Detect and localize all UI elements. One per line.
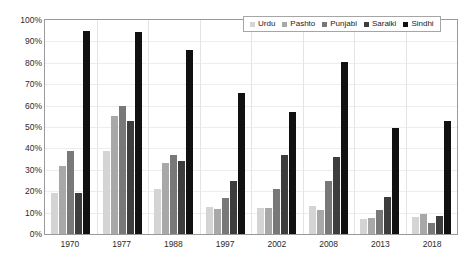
legend-label: Sindhi [411, 20, 433, 28]
legend-label: Pashto [290, 20, 315, 28]
y-axis-tick-label: 40% [2, 144, 42, 153]
bar [111, 116, 118, 234]
bar [238, 93, 245, 234]
y-axis-tick-label: 0% [2, 230, 42, 239]
bar [317, 210, 324, 234]
x-axis: 19701977198819972002200820132018 [44, 236, 458, 254]
bar-chart: 0%10%20%30%40%50%60%70%80%90%100% 197019… [0, 0, 469, 263]
legend-label: Urdu [258, 20, 275, 28]
bar [412, 217, 419, 234]
bar [368, 218, 375, 234]
bar-group [148, 20, 200, 234]
y-axis-tick-label: 80% [2, 59, 42, 68]
bar [119, 106, 126, 234]
legend-swatch-icon [282, 22, 287, 27]
bar [265, 208, 272, 234]
y-axis-tick-label: 70% [2, 80, 42, 89]
y-axis-tick-label: 50% [2, 123, 42, 132]
legend-label: Saraiki [372, 20, 396, 28]
bar [281, 155, 288, 234]
legend-item[interactable]: Saraiki [364, 20, 396, 28]
y-axis-tick-label: 10% [2, 208, 42, 217]
y-axis-tick-label: 20% [2, 187, 42, 196]
bar [67, 151, 74, 234]
bar [186, 50, 193, 234]
y-axis-tick-label: 30% [2, 166, 42, 175]
bar [392, 128, 399, 234]
bar [170, 155, 177, 234]
x-axis-tick-label: 2002 [251, 236, 303, 254]
legend-swatch-icon [250, 22, 255, 27]
bar [51, 193, 58, 234]
legend-item[interactable]: Urdu [250, 20, 275, 28]
x-axis-tick-label: 2018 [406, 236, 458, 254]
y-axis: 0%10%20%30%40%50%60%70%80%90%100% [0, 19, 42, 235]
bars-layer [45, 20, 457, 234]
legend-item[interactable]: Punjabi [322, 20, 357, 28]
bar [103, 151, 110, 234]
bar [214, 209, 221, 234]
bar [135, 32, 142, 234]
legend-item[interactable]: Pashto [282, 20, 315, 28]
bar-group [354, 20, 406, 234]
bar [127, 121, 134, 234]
bar [222, 198, 229, 234]
bar [257, 208, 264, 234]
x-axis-tick-label: 1970 [44, 236, 96, 254]
legend-swatch-icon [403, 22, 408, 27]
bar [75, 193, 82, 234]
bar-group [251, 20, 303, 234]
x-axis-tick-label: 1977 [96, 236, 148, 254]
bar [333, 157, 340, 234]
bar [289, 112, 296, 234]
bar [376, 210, 383, 234]
x-axis-tick-label: 2013 [355, 236, 407, 254]
bar-group [45, 20, 97, 234]
x-axis-tick-label: 1988 [148, 236, 200, 254]
legend-swatch-icon [364, 22, 369, 27]
legend-swatch-icon [322, 22, 327, 27]
bar [230, 181, 237, 235]
bar [162, 163, 169, 234]
y-axis-tick-label: 100% [2, 16, 42, 25]
y-axis-tick-label: 90% [2, 37, 42, 46]
chart-legend: UrduPashtoPunjabiSaraikiSindhi [243, 16, 441, 32]
bar [154, 189, 161, 234]
bar-group [303, 20, 355, 234]
bar [325, 181, 332, 235]
bar [444, 121, 451, 234]
bar [384, 197, 391, 234]
bar [360, 219, 367, 234]
bar [420, 214, 427, 234]
bar-group [406, 20, 458, 234]
bar [309, 206, 316, 234]
legend-label: Punjabi [330, 20, 357, 28]
x-axis-tick-label: 2008 [303, 236, 355, 254]
legend-item[interactable]: Sindhi [403, 20, 433, 28]
y-axis-tick-label: 60% [2, 101, 42, 110]
bar [83, 31, 90, 234]
bar [341, 62, 348, 234]
bar-group [200, 20, 252, 234]
x-axis-tick-label: 1997 [199, 236, 251, 254]
bar [178, 161, 185, 234]
bar [273, 189, 280, 234]
bar [206, 207, 213, 234]
bar-group [97, 20, 149, 234]
bar [428, 223, 435, 234]
bar [436, 216, 443, 234]
bar [59, 166, 66, 234]
